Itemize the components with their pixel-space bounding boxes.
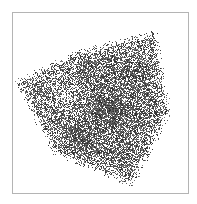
point-cloud bbox=[0, 0, 197, 204]
